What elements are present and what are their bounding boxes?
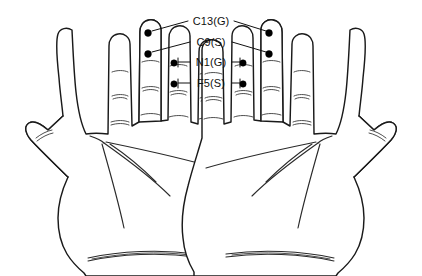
acupoint-n1g-right[interactable] [240,60,246,66]
acupoint-label-f5s: F5(S) [197,78,225,89]
acupoint-n1g-left[interactable] [171,60,177,66]
acupoint-f5s-right[interactable] [240,81,246,87]
acupoint-label-c13g: C13(G) [193,16,230,27]
right-index-finger [261,20,283,122]
acupoint-c9s-right[interactable] [266,51,273,58]
acupoint-c13g-left[interactable] [145,30,152,37]
acupoint-f5s-left[interactable] [171,81,177,87]
acupoint-label-n1g: N1(G) [196,57,226,68]
acupoint-label-c9s: C9(S) [196,37,225,48]
right-thumb [354,116,396,177]
hand-acupoint-diagram: C13(G) C9(S) N1(G) F5(S) [0,0,422,276]
acupoint-c9s-left[interactable] [145,51,152,58]
left-thumb [26,116,68,177]
acupoint-c13g-right[interactable] [266,30,273,37]
